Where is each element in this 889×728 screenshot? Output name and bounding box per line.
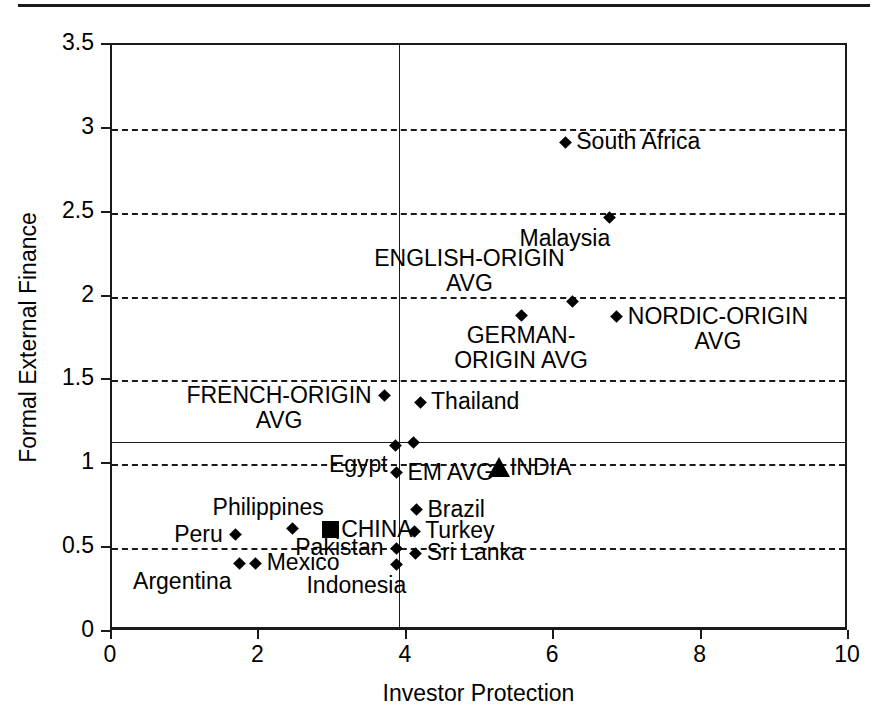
data-point-brazil <box>410 503 423 516</box>
data-label-nordic-origin-avg: NORDIC-ORIGINAVG <box>628 304 808 354</box>
data-label-french-origin-avg: FRENCH-ORIGINAVG <box>186 383 371 433</box>
y-tick-label-1: 0.5 <box>62 534 94 557</box>
x-tick-label-4: 8 <box>660 643 740 666</box>
data-label-sri-lanka: Sri Lanka <box>427 540 524 565</box>
data-label-south-africa: South Africa <box>576 129 700 154</box>
data-point-index-8 <box>407 436 420 449</box>
gridline-y-2 <box>112 297 845 299</box>
x-axis-title: Investor Protection <box>110 680 847 707</box>
data-label-egypt: Egypt <box>329 452 388 477</box>
x-tick-mark-5 <box>847 630 849 639</box>
x-tick-label-5: 10 <box>807 643 887 666</box>
y-tick-label-2: 1 <box>81 450 94 473</box>
data-label-thailand: Thailand <box>431 389 519 414</box>
y-tick-mark-1 <box>101 546 110 548</box>
data-label-peru: Peru <box>174 522 223 547</box>
data-label-em-avg: EM AVG <box>407 460 494 485</box>
y-tick-label-3: 1.5 <box>62 366 94 389</box>
y-tick-mark-6 <box>101 127 110 129</box>
x-tick-mark-0 <box>110 630 112 639</box>
data-point-philippines <box>286 522 299 535</box>
data-point-german-origin-avg <box>515 309 528 322</box>
data-point-french-origin-avg <box>378 389 391 402</box>
gridline-y-2_5 <box>112 213 845 215</box>
x-tick-mark-1 <box>257 630 259 639</box>
data-label-indonesia: Indonesia <box>306 573 486 598</box>
y-tick-mark-2 <box>101 462 110 464</box>
data-point-south-africa <box>559 136 572 149</box>
data-point-em-avg <box>390 466 403 479</box>
data-label-german-origin-avg: GERMAN-ORIGIN AVG <box>431 323 611 373</box>
data-point-pakistan <box>390 542 403 555</box>
y-tick-mark-7 <box>101 43 110 45</box>
x-tick-label-1: 2 <box>217 643 297 666</box>
gridline-y-3 <box>112 129 845 131</box>
data-point-peru <box>229 528 242 541</box>
x-tick-mark-2 <box>405 630 407 639</box>
data-label-mexico: Mexico <box>267 550 340 575</box>
y-tick-label-4: 2 <box>81 283 94 306</box>
data-label-english-origin-avg: ENGLISH-ORIGINAVG <box>374 246 564 296</box>
x-tick-label-3: 6 <box>512 643 592 666</box>
y-tick-mark-4 <box>101 295 110 297</box>
y-tick-label-6: 3 <box>81 115 94 138</box>
x-tick-mark-4 <box>700 630 702 639</box>
scatter-chart-figure: Formal External Finance Investor Protect… <box>0 0 889 728</box>
y-tick-mark-0 <box>101 630 110 632</box>
data-point-mexico <box>249 557 262 570</box>
y-tick-mark-5 <box>101 211 110 213</box>
x-tick-label-0: 0 <box>70 643 150 666</box>
data-point-thailand <box>414 396 427 409</box>
x-tick-mark-3 <box>552 630 554 639</box>
y-tick-mark-3 <box>101 378 110 380</box>
page-top-rule <box>18 4 870 7</box>
x-tick-label-2: 4 <box>365 643 445 666</box>
em-avg-finance-line <box>112 442 845 443</box>
data-point-indonesia <box>390 559 403 572</box>
y-tick-label-5: 2.5 <box>62 199 94 222</box>
data-point-argentina <box>233 557 246 570</box>
y-tick-label-0: 0 <box>81 618 94 641</box>
data-label-india: INDIA <box>510 455 571 480</box>
data-point-nordic-origin-avg <box>610 310 623 323</box>
plot-area: South AfricaMalaysiaENGLISH-ORIGINAVGNOR… <box>110 43 847 630</box>
data-label-argentina: Argentina <box>133 569 231 594</box>
y-axis-title: Formal External Finance <box>15 128 42 548</box>
y-tick-label-7: 3.5 <box>62 31 94 54</box>
